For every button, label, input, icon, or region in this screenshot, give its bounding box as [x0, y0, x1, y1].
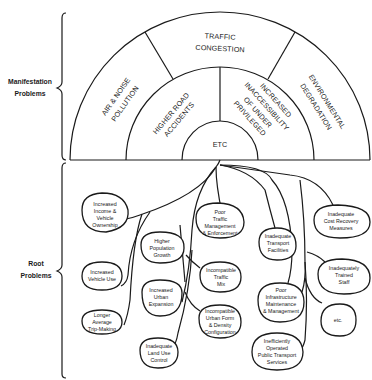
svg-text:CONGESTION: CONGESTION: [195, 43, 245, 55]
svg-text:Vehicle: Vehicle: [96, 215, 113, 221]
svg-text:etc.: etc.: [334, 317, 343, 323]
svg-text:Poor: Poor: [214, 209, 225, 215]
svg-text:Traffic: Traffic: [213, 216, 228, 222]
svg-text:& Management: & Management: [263, 308, 299, 314]
svg-text:Transport: Transport: [267, 240, 290, 246]
root-problem-land-use: Inadequate Land Use Control: [140, 338, 178, 368]
svg-text:TRAFFIC: TRAFFIC: [204, 31, 235, 42]
problem-tree-diagram: Manifestation Problems Root Problems TRA…: [0, 0, 372, 380]
svg-text:Urban: Urban: [154, 294, 168, 300]
root-problem-urban-form: Incompatible Urban Form & Density Config…: [199, 305, 241, 338]
root-problem-traffic-mgmt: Poor Traffic Management & Enforcement: [196, 203, 244, 238]
svg-text:Higher: Higher: [154, 238, 170, 244]
root-problem-income: Increased Income & Vehicle Ownership: [82, 193, 128, 232]
svg-text:Inadequately: Inadequately: [329, 265, 360, 271]
svg-text:Inadequate: Inadequate: [265, 233, 292, 239]
svg-text:Increased: Increased: [90, 269, 113, 275]
svg-text:Control: Control: [150, 357, 167, 363]
svg-text:Increased: Increased: [93, 201, 116, 207]
root-brace: [57, 163, 66, 378]
svg-text:Average: Average: [92, 319, 112, 325]
root-problem-traffic-mix: Incompatible Traffic Mix: [200, 262, 241, 292]
svg-text:Trained: Trained: [335, 272, 353, 278]
svg-text:Poor: Poor: [275, 287, 286, 293]
root-label: Root: [28, 260, 44, 267]
root-problem-cost-recovery: Inadequate Cost Recovery Measures: [314, 205, 370, 238]
svg-text:Incompatible: Incompatible: [205, 308, 235, 314]
svg-text:Incompatible: Incompatible: [206, 267, 236, 273]
svg-text:Cost Recovery: Cost Recovery: [324, 218, 359, 224]
root-problem-population: Higher Population Growth: [141, 232, 184, 263]
segment-increased-inaccessibility: INCREASED INACCESSIBILITY OF UNDER PRIVI…: [232, 80, 294, 138]
svg-text:Inefficiently: Inefficiently: [264, 338, 291, 344]
root-problem-public-transport: Inefficiently Operated Public Transport …: [252, 333, 303, 370]
manifestation-label: Manifestation: [8, 78, 52, 85]
root-problem-urban-expansion: Increased Urban Expansion: [142, 280, 182, 316]
svg-text:& Enforcement: & Enforcement: [202, 230, 238, 236]
svg-text:Operated: Operated: [266, 345, 288, 351]
root-problem-trained-staff: Inadequately Trained Staff: [318, 259, 370, 294]
svg-text:Staff: Staff: [339, 279, 350, 285]
svg-text:Growth: Growth: [153, 252, 170, 258]
svg-text:Public Transport: Public Transport: [258, 352, 297, 358]
svg-text:Land Use: Land Use: [148, 350, 171, 356]
svg-text:Configuration: Configuration: [204, 329, 236, 335]
svg-text:Mix: Mix: [217, 281, 226, 287]
root-label-line2: Problems: [21, 272, 52, 279]
svg-text:Expansion: Expansion: [149, 301, 174, 307]
svg-text:Services: Services: [267, 359, 288, 365]
svg-text:& Density: & Density: [209, 322, 232, 328]
root-problem-vehicle-use: Increased Vehicle Use: [82, 262, 122, 290]
svg-text:Population: Population: [149, 245, 174, 251]
svg-text:Traffic: Traffic: [214, 274, 229, 280]
root-problem-infrastructure: Poor Infrastructure Maintenance & Manage…: [258, 283, 304, 322]
svg-text:Increased: Increased: [149, 287, 172, 293]
svg-text:Management: Management: [205, 223, 236, 229]
svg-text:Maintenance: Maintenance: [266, 301, 296, 307]
svg-text:Income &: Income &: [94, 208, 117, 214]
root-problem-transport-facilities: Inadequate Transport Facilities: [259, 228, 296, 260]
svg-text:Trip-Making: Trip-Making: [88, 326, 116, 332]
segment-higher-road-accidents: HIGHER ROAD ACCIDENTS: [151, 91, 196, 139]
svg-text:Ownership: Ownership: [92, 222, 117, 228]
segment-etc: ETC: [213, 140, 228, 149]
svg-text:Longer: Longer: [94, 312, 111, 318]
svg-text:Infrastructure: Infrastructure: [265, 294, 296, 300]
svg-text:Urban Form: Urban Form: [206, 315, 235, 321]
root-problem-trip-making: Longer Average Trip-Making: [82, 310, 122, 334]
svg-text:Facilities: Facilities: [268, 247, 289, 253]
manifestation-label-line2: Problems: [15, 90, 46, 97]
root-problem-etc: etc.: [321, 304, 356, 336]
svg-text:Vehicle Use: Vehicle Use: [88, 276, 116, 282]
segment-traffic-congestion: TRAFFIC CONGESTION: [195, 31, 245, 54]
svg-text:Inadequate: Inadequate: [146, 343, 173, 349]
svg-text:Inadequate: Inadequate: [328, 211, 355, 217]
svg-text:Measures: Measures: [329, 225, 353, 231]
manifestation-brace: [57, 13, 66, 160]
segment-air-noise-pollution: AIR & NOISE POLLUTION: [100, 76, 141, 123]
